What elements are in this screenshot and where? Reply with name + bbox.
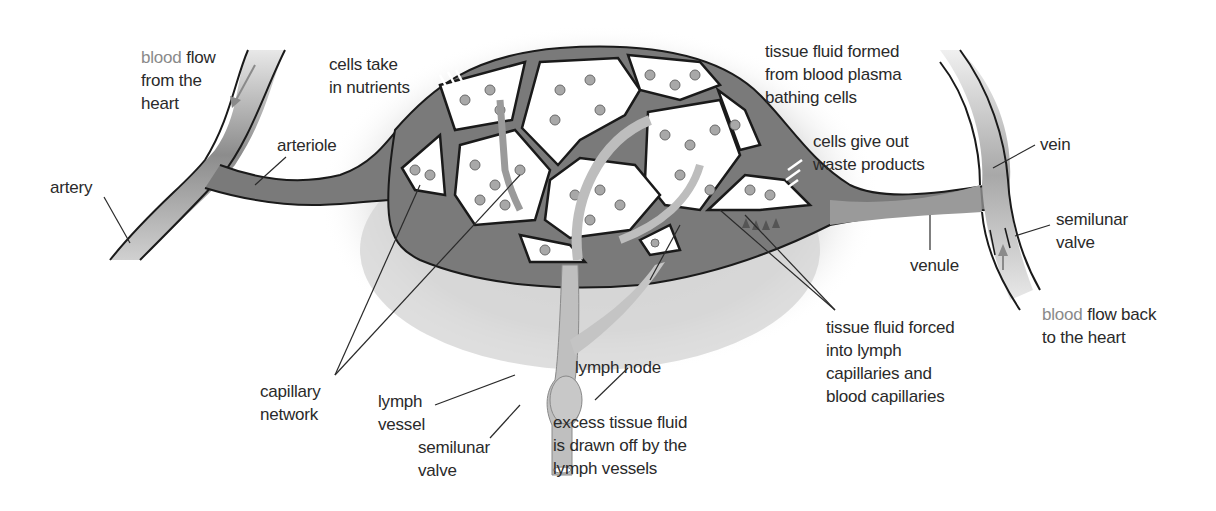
label-arteriole: arteriole [277, 134, 337, 157]
label-artery: artery [50, 176, 92, 199]
label-cells-give-out-waste: cells give out waste products [813, 130, 925, 176]
label-tissue-fluid-formed: tissue fluid formed from blood plasma ba… [765, 40, 901, 109]
label-tissue-fluid-forced: tissue fluid forced into lymph capillari… [826, 316, 955, 408]
label-lymph-node: lymph node [575, 356, 661, 379]
label-semilunar-valve-vein: semilunar valve [1056, 208, 1128, 254]
label-semilunar-valve-lymph: semilunar valve [418, 436, 490, 482]
label-blood-highlight: blood [141, 48, 182, 67]
label-blood-flow-from-heart: blood flow from the heart [141, 46, 216, 115]
label-excess-tissue-fluid: excess tissue fluid is drawn off by the … [553, 411, 687, 480]
label-vein: vein [1040, 133, 1070, 156]
label-venule: venule [910, 254, 959, 277]
label-capillary-network: capillary network [260, 380, 321, 426]
label-cells-take-in-nutrients: cells take in nutrients [329, 53, 410, 99]
label-blood-flow-back: blood flow back to the heart [1042, 303, 1156, 349]
label-blood-highlight: blood [1042, 305, 1083, 324]
label-lymph-vessel: lymph vessel [378, 390, 425, 436]
